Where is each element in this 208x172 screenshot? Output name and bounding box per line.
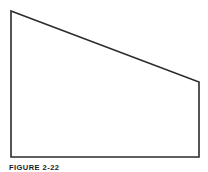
figure-page: FIGURE 2-22 xyxy=(0,0,208,172)
figure-shape-canvas xyxy=(0,0,208,172)
figure-caption: FIGURE 2-22 xyxy=(9,164,59,172)
